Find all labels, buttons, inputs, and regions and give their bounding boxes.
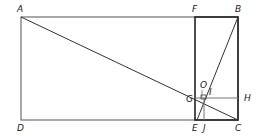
diagonal-ac (21, 17, 238, 120)
label-d: D (17, 123, 24, 133)
diagonal-be (197, 17, 238, 120)
label-j: J (201, 123, 206, 133)
label-e: E (192, 123, 198, 133)
label-a: A (16, 4, 23, 14)
label-o: O (200, 80, 207, 90)
label-g: G (186, 94, 193, 104)
geometry-diagram: A F B D E J C G H O I (0, 0, 261, 136)
label-c: C (235, 123, 242, 133)
label-h: H (244, 93, 251, 103)
label-f: F (192, 4, 198, 14)
label-i: I (209, 87, 212, 97)
label-b: B (235, 4, 241, 14)
